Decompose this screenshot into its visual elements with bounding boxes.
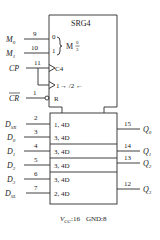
svg-text:Q3: Q3 xyxy=(143,185,152,195)
cp-pin-number: 11 xyxy=(34,59,41,67)
m0-pin-number: 9 xyxy=(33,30,37,38)
data-input-d0: 3 D0 3, 4D xyxy=(6,128,70,143)
mode-brace xyxy=(57,37,62,55)
m1-label: M1 xyxy=(5,49,15,59)
svg-text:2, 4D: 2, 4D xyxy=(54,190,70,198)
svg-text:DSR: DSR xyxy=(4,120,16,130)
clock-triangle-icon xyxy=(49,82,55,89)
svg-text:14: 14 xyxy=(124,142,132,150)
output-q3: 12 Q3 xyxy=(117,180,152,195)
cr-label: CR xyxy=(9,94,19,103)
svg-text:DSL: DSL xyxy=(4,189,16,199)
inversion-bubble-icon xyxy=(45,96,49,100)
svg-text:2: 2 xyxy=(34,114,38,122)
svg-text:3, 4D: 3, 4D xyxy=(54,148,70,156)
mode-input-1: 1 xyxy=(52,47,56,55)
svg-text:7: 7 xyxy=(34,184,38,192)
control-block-outline xyxy=(49,15,117,113)
svg-text:D3: D3 xyxy=(6,175,16,185)
svg-text:15: 15 xyxy=(124,120,132,128)
svg-text:3, 4D: 3, 4D xyxy=(54,176,70,184)
data-input-dsl: 7 DSL 2, 4D xyxy=(4,184,70,199)
mode-input-0: 0 xyxy=(52,33,56,41)
m0-label: M0 xyxy=(5,35,16,45)
srg4-diagram: SRG4 9 M0 0 10 M1 1 M 0 3 11 CP C4 1 → /… xyxy=(0,0,160,240)
svg-text:5: 5 xyxy=(34,156,38,164)
cp-label: CP xyxy=(9,64,19,73)
svg-text:3, 4D: 3, 4D xyxy=(54,134,70,142)
mode-fraction-bottom: 3 xyxy=(76,47,79,52)
svg-text:1, 4D: 1, 4D xyxy=(54,121,70,129)
output-q2: 13 Q2 xyxy=(117,154,152,169)
shift-direction-label: → /2 ← xyxy=(60,82,83,90)
output-q0: 15 Q0 xyxy=(117,120,152,135)
svg-text:Q2: Q2 xyxy=(143,159,152,169)
svg-text:3: 3 xyxy=(34,128,38,136)
clock-label: C4 xyxy=(55,65,64,73)
mode-label: M xyxy=(66,42,73,51)
chip-title: SRG4 xyxy=(71,19,91,28)
svg-text:4: 4 xyxy=(34,142,38,150)
mode-fraction-top: 0 xyxy=(76,40,79,45)
output-q1: 14 Q1 xyxy=(117,142,151,157)
svg-text:13: 13 xyxy=(124,154,132,162)
svg-text:D2: D2 xyxy=(6,161,16,171)
svg-text:D0: D0 xyxy=(6,133,16,143)
svg-text:Q1: Q1 xyxy=(143,147,151,157)
power-caption: VCC:16GND:8 xyxy=(60,215,107,224)
svg-text:12: 12 xyxy=(124,180,132,188)
cr-pin-number: 1 xyxy=(33,89,37,97)
svg-text:D1: D1 xyxy=(6,147,15,157)
svg-text:Q0: Q0 xyxy=(143,125,152,135)
svg-text:3, 4D: 3, 4D xyxy=(54,162,70,170)
svg-text:6: 6 xyxy=(34,170,38,178)
reset-label: R xyxy=(54,95,59,103)
m1-pin-number: 10 xyxy=(31,44,39,52)
